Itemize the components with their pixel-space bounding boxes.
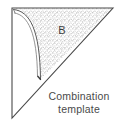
figure-canvas: B Combination template [0, 0, 120, 125]
caption-line-1: Combination [48, 90, 109, 102]
caption-line-2: template [58, 103, 100, 115]
region-label-b: B [58, 24, 65, 36]
combination-template-figure: B Combination template [0, 0, 120, 125]
